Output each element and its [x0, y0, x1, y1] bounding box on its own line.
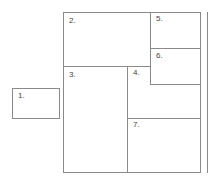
divider-6-4 — [150, 84, 200, 85]
panel-2-label: 2. — [69, 17, 76, 25]
outer-frame — [63, 12, 201, 173]
right-edge-line — [207, 12, 208, 173]
panel-7-label: 7. — [133, 121, 140, 129]
panel-6-label: 6. — [156, 52, 163, 60]
divider-3-4 — [127, 66, 128, 173]
divider-2-3 — [63, 66, 150, 67]
panel-5-label: 5. — [156, 15, 163, 23]
divider-4-7 — [127, 118, 200, 119]
panel-3-label: 3. — [69, 71, 76, 79]
divider-5-6 — [150, 48, 200, 49]
panel-4-label: 4. — [133, 69, 140, 77]
panel-1-label: 1. — [18, 92, 25, 100]
